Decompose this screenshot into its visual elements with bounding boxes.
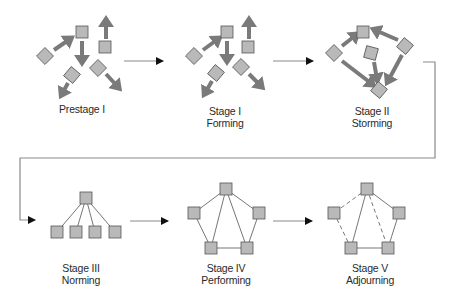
stage-stage-5 xyxy=(328,183,405,254)
movement-arrow-icon xyxy=(54,39,70,50)
stage-title: Prestage I xyxy=(59,104,105,116)
member-node xyxy=(80,192,92,204)
stage-label-stage-5: Stage V Adjourning xyxy=(346,263,394,286)
stage-subtitle: Performing xyxy=(201,275,250,287)
movement-arrow-icon xyxy=(342,35,356,46)
solid-link xyxy=(211,189,226,248)
stage-stage-4 xyxy=(188,183,265,254)
stage-stage-1 xyxy=(186,21,261,93)
member-node xyxy=(361,183,373,195)
member-node xyxy=(326,45,343,62)
stage-title: Stage II xyxy=(352,106,392,118)
stage-label-stage-1: Stage I Forming xyxy=(206,106,243,129)
stage-stage-3 xyxy=(51,192,121,238)
stage-label-stage-2: Stage II Storming xyxy=(352,106,392,129)
stage-label-stage-4: Stage IV Performing xyxy=(201,263,250,286)
member-node xyxy=(99,41,111,53)
member-node xyxy=(208,65,225,82)
stage-label-stage-3: Stage III Norming xyxy=(62,263,100,286)
stage-subtitle: Norming xyxy=(62,275,100,287)
stage-title: Stage V xyxy=(346,263,394,275)
member-node xyxy=(64,67,81,84)
member-node xyxy=(397,38,414,55)
solid-link xyxy=(226,189,247,248)
stage-subtitle: Storming xyxy=(352,118,392,130)
member-node xyxy=(328,207,340,219)
member-node xyxy=(345,242,357,254)
member-node xyxy=(37,48,54,65)
member-node xyxy=(242,41,254,53)
member-node xyxy=(233,59,250,76)
member-node xyxy=(221,26,233,38)
movement-arrow-icon xyxy=(106,74,118,87)
member-node xyxy=(220,183,232,195)
member-node xyxy=(364,46,379,61)
stage-stage-2 xyxy=(326,26,414,98)
movement-arrow-icon xyxy=(388,55,402,81)
member-node xyxy=(371,82,388,99)
stage-label-prestage-1: Prestage I xyxy=(59,104,105,116)
member-node xyxy=(51,226,63,238)
movement-arrow-icon xyxy=(342,61,372,84)
member-node xyxy=(109,226,121,238)
member-node xyxy=(205,242,217,254)
movement-arrow-icon xyxy=(249,74,261,86)
member-node xyxy=(186,48,203,65)
member-node xyxy=(357,26,369,38)
stage-title: Stage IV xyxy=(201,263,250,275)
movement-arrow-icon xyxy=(375,30,398,40)
solid-link xyxy=(351,189,367,248)
member-node xyxy=(253,207,265,219)
movement-arrow-icon xyxy=(203,39,218,50)
member-node xyxy=(188,207,200,219)
member-node xyxy=(90,60,107,77)
team-development-diagram xyxy=(0,0,450,297)
member-node xyxy=(76,26,88,38)
member-node xyxy=(89,226,101,238)
stage-title: Stage III xyxy=(62,263,100,275)
stage-subtitle: Adjourning xyxy=(346,275,394,287)
stage-title: Stage I xyxy=(206,106,243,118)
stage-subtitle: Forming xyxy=(206,118,243,130)
member-node xyxy=(393,207,405,219)
stage-prestage-1 xyxy=(37,21,118,94)
member-node xyxy=(241,242,253,254)
member-node xyxy=(70,226,82,238)
stages xyxy=(37,21,414,254)
movement-arrow-icon xyxy=(205,81,212,93)
movement-arrow-icon xyxy=(374,62,377,79)
movement-arrow-icon xyxy=(62,83,68,94)
dashed-link xyxy=(367,189,388,248)
member-node xyxy=(382,242,394,254)
